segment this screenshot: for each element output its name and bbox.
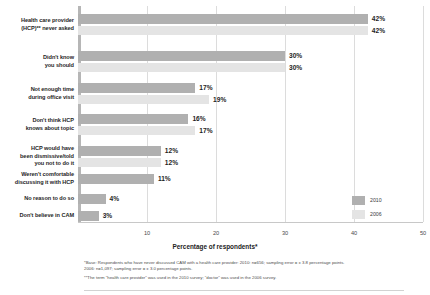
bar-2010-4 [78,146,161,156]
bar-value-2010-0: 42% [372,14,385,24]
legend-swatch-2010 [352,196,365,205]
bar-2010-7 [78,211,99,221]
x-tick-20: 20 [213,230,219,236]
bar-value-2010-3: 16% [192,114,205,124]
category-label-1: Didn't knowyou should [0,54,74,69]
category-label-line: (HCP)** never asked [0,25,74,32]
bar-2006-1 [78,63,285,73]
category-label-line: HCP would have [0,145,74,152]
gridline-50 [423,6,424,222]
category-label-line: you should [0,62,74,69]
bar-value-2006-1: 30% [289,63,302,73]
gridline-30 [285,6,286,222]
bar-2006-4 [78,158,161,168]
value-axis-ticks: 1020304050 [78,230,423,242]
category-label-line: No reason to do so [0,195,74,202]
x-tick-30: 30 [282,230,288,236]
plot-wrapper: Health care provider(HCP)** never askedD… [0,6,430,228]
bar-value-2010-5: 11% [158,174,171,184]
footer-divider [84,290,404,291]
bar-2010-5 [78,174,154,184]
category-label-line: Not enough time [0,86,74,93]
category-label-4: HCP would havebeen dismissive/toldyou no… [0,145,74,167]
bar-2010-6 [78,194,106,204]
legend-swatch-2006 [352,210,365,219]
bar-2010-2 [78,83,195,93]
gridline-20 [216,6,217,222]
chart-legend: 20102006 [352,196,412,228]
category-label-line: during office visit [0,94,74,101]
footnote-base-2006: 2006: n=1,097; sampling error = ± 3.0 pe… [84,266,414,272]
bar-value-2010-4: 12% [165,146,178,156]
category-label-7: Don't believe in CAM [0,212,74,219]
category-label-line: Don't believe in CAM [0,212,74,219]
plot-area: 42%30%17%16%12%11%4%3%42%30%19%17%12% [78,6,423,228]
category-label-line: Health care provider [0,17,74,24]
gridline-40 [354,6,355,222]
bar-2006-0 [78,26,368,36]
category-label-6: No reason to do so [0,195,74,202]
category-label-line: discussing it with HCP [0,179,74,186]
bar-2010-3 [78,114,188,124]
bar-value-2010-7: 3% [103,211,113,221]
bar-value-2006-3: 17% [199,126,212,136]
bar-2006-2 [78,95,209,105]
category-label-line: you not to do it [0,160,74,167]
x-tick-40: 40 [351,230,357,236]
bar-value-2010-1: 30% [289,51,302,61]
bar-value-2006-4: 12% [165,158,178,168]
value-axis-title: Percentage of respondents* [0,243,430,250]
x-tick-50: 50 [420,230,426,236]
bar-2010-1 [78,51,285,61]
category-label-5: Weren't comfortablediscussing it with HC… [0,171,74,186]
category-label-line: Didn't know [0,54,74,61]
category-label-2: Not enough timeduring office visit [0,86,74,101]
bar-value-2006-2: 19% [213,95,226,105]
category-label-line: knows about topic [0,125,74,132]
legend-label-2010: 2010 [370,197,382,203]
category-label-3: Don't think HCPknows about topic [0,117,74,132]
x-tick-10: 10 [144,230,150,236]
category-label-0: Health care provider(HCP)** never asked [0,17,74,32]
category-label-line: Don't think HCP [0,117,74,124]
footnote-term: **The term "health care provider" was us… [84,275,414,281]
bar-value-2010-2: 17% [199,83,212,93]
bar-value-2006-0: 42% [372,26,385,36]
category-axis-labels: Health care provider(HCP)** never askedD… [0,6,74,228]
footnotes: *Base: Respondents who have never discus… [84,260,414,281]
category-label-line: been dismissive/told [0,153,74,160]
bar-value-2010-6: 4% [110,194,120,204]
bar-2010-0 [78,14,368,24]
legend-label-2006: 2006 [370,211,382,217]
category-label-line: Weren't comfortable [0,171,74,178]
bar-2006-3 [78,126,195,136]
horizontal-bar-chart: Health care provider(HCP)** never askedD… [0,0,430,295]
